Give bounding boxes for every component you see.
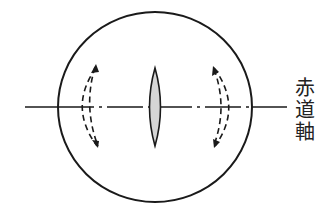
right-arrowhead-down-icon [213, 139, 220, 148]
left-arrowhead-up-icon [91, 64, 99, 73]
central-spindle [150, 68, 161, 146]
equatorial-axis-label: 赤 道 軸 [292, 77, 318, 143]
cell-diagram [0, 0, 336, 204]
left-arrowhead-down-icon [92, 140, 99, 148]
label-char-1: 赤 [292, 77, 318, 99]
label-char-3: 軸 [292, 121, 318, 143]
label-char-2: 道 [292, 99, 318, 121]
